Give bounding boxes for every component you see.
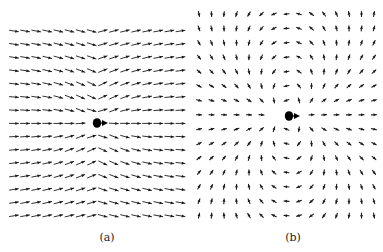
vector-arrow <box>43 83 52 86</box>
vector-arrow <box>347 170 350 175</box>
vector-arrow <box>54 174 63 177</box>
vector-arrow <box>335 184 338 189</box>
vector-arrow <box>297 13 302 16</box>
vector-arrow <box>222 170 225 175</box>
vector-arrow <box>347 99 352 102</box>
vector-arrow <box>310 41 313 45</box>
vector-arrow <box>310 98 313 102</box>
vector-arrow <box>260 199 263 203</box>
vector-arrow <box>248 12 251 16</box>
vector-arrow <box>247 99 251 102</box>
vector-arrow <box>32 109 41 112</box>
vector-arrow <box>32 188 41 191</box>
vector-arrow <box>87 214 96 217</box>
vector-arrow <box>372 99 377 102</box>
vector-arrow <box>248 184 251 189</box>
vector-arrow <box>54 122 63 125</box>
vector-arrow <box>54 148 63 151</box>
vector-arrow <box>176 148 185 151</box>
vector-arrow <box>132 56 141 59</box>
vector-arrow <box>197 156 201 159</box>
vector-arrow <box>98 108 107 111</box>
vector-arrow <box>43 188 52 191</box>
vector-arrow <box>43 148 52 151</box>
vector-arrow <box>121 122 130 125</box>
vector-arrow <box>110 201 119 204</box>
vector-arrow <box>247 69 250 74</box>
vector-arrow <box>132 215 141 218</box>
vector-arrow <box>247 128 251 131</box>
vector-arrow <box>10 82 19 85</box>
vector-arrow <box>323 40 326 45</box>
vector-arrow <box>154 188 163 191</box>
vector-arrow <box>99 95 107 99</box>
vector-arrow <box>209 113 214 116</box>
vector-arrow <box>322 141 325 145</box>
vector-arrow <box>297 185 302 188</box>
vector-arrow <box>110 188 119 191</box>
vector-arrow <box>360 70 363 74</box>
vector-arrow <box>197 55 200 59</box>
vector-arrow <box>154 201 163 204</box>
vector-arrow <box>272 214 277 217</box>
vector-arrow <box>197 99 202 102</box>
vector-arrow <box>110 95 118 99</box>
vector-field-figure <box>0 0 383 252</box>
vector-arrow <box>360 170 363 174</box>
vector-arrow <box>310 170 313 174</box>
vector-arrow <box>110 69 118 72</box>
vector-arrow <box>310 200 314 203</box>
vector-arrow <box>260 185 263 189</box>
vector-arrow <box>65 135 74 138</box>
vector-arrow <box>197 113 202 116</box>
panel-b-caption: (b) <box>285 231 301 244</box>
vector-arrow <box>76 161 84 165</box>
vector-arrow <box>248 55 251 60</box>
vector-arrow <box>54 43 63 46</box>
vector-arrow <box>210 55 213 59</box>
vector-arrow <box>323 55 326 60</box>
vector-arrow <box>87 201 96 204</box>
vector-arrow <box>235 84 238 88</box>
vector-arrow <box>197 199 200 204</box>
vector-arrow <box>43 161 52 164</box>
vector-arrow <box>310 27 314 30</box>
vector-arrow <box>121 29 130 32</box>
vector-arrow <box>121 215 130 218</box>
vector-arrow <box>176 135 185 138</box>
vector-arrow <box>235 142 239 145</box>
vector-arrow <box>32 69 41 72</box>
vector-arrow <box>121 161 129 164</box>
vector-arrow <box>359 99 364 102</box>
vector-arrow <box>273 84 276 89</box>
vector-arrow <box>297 200 302 203</box>
vector-arrow <box>273 156 276 160</box>
vector-arrow <box>132 188 141 191</box>
vector-arrow <box>99 56 107 59</box>
vector-arrow <box>154 175 163 178</box>
vector-arrow <box>143 82 152 85</box>
vector-arrow <box>210 26 213 31</box>
vector-arrow <box>260 128 264 131</box>
vector-arrow <box>197 185 200 189</box>
vector-arrow <box>298 98 301 103</box>
vector-arrow <box>335 84 338 88</box>
vector-arrow <box>176 201 185 204</box>
vector-arrow <box>54 96 63 99</box>
vector-arrow <box>165 82 174 85</box>
vector-arrow <box>284 128 289 131</box>
vector-arrow <box>87 30 96 33</box>
vector-arrow <box>10 43 19 46</box>
vector-arrow <box>372 142 376 145</box>
vector-arrow <box>21 214 30 217</box>
vector-arrow <box>310 185 313 189</box>
vector-arrow <box>43 56 52 59</box>
vector-arrow <box>176 215 185 218</box>
vector-arrow <box>235 55 238 60</box>
vector-arrow <box>272 56 276 59</box>
vector-arrow <box>235 40 238 45</box>
vector-arrow <box>284 214 289 217</box>
particle-a <box>93 118 108 128</box>
vector-arrow <box>88 82 96 86</box>
vector-arrow <box>165 29 174 32</box>
